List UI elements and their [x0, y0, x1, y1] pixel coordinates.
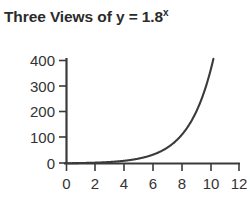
x-tick-label-6: 6: [149, 175, 157, 192]
y-tick-label-100: 100: [30, 129, 55, 146]
chart-figure: Three Views of y = 1.8x: [0, 0, 250, 217]
x-tick-marks: [67, 164, 240, 172]
y-tick-labels: 400 300 200 100 0: [30, 52, 55, 172]
chart-title-exponent: x: [163, 7, 168, 18]
x-tick-label-12: 12: [231, 175, 248, 192]
y-tick-marks: [59, 61, 67, 164]
x-tick-label-4: 4: [120, 175, 128, 192]
y-tick-label-0: 0: [47, 155, 55, 172]
x-tick-label-10: 10: [203, 175, 220, 192]
chart-title-base: Three Views of y = 1.8: [4, 8, 163, 25]
y-tick-label-200: 200: [30, 103, 55, 120]
y-tick-label-300: 300: [30, 78, 55, 95]
exponential-curve: [67, 59, 214, 163]
x-tick-label-2: 2: [91, 175, 99, 192]
x-tick-label-0: 0: [62, 175, 70, 192]
chart-svg: 400 300 200 100 0 0 2 4 6 8 10 12: [0, 30, 250, 217]
x-tick-labels: 0 2 4 6 8 10 12: [62, 175, 247, 192]
chart-title: Three Views of y = 1.8x: [4, 2, 250, 28]
y-tick-label-400: 400: [30, 52, 55, 69]
x-tick-label-8: 8: [178, 175, 186, 192]
plot-area: 400 300 200 100 0 0 2 4 6 8 10 12: [0, 30, 250, 217]
